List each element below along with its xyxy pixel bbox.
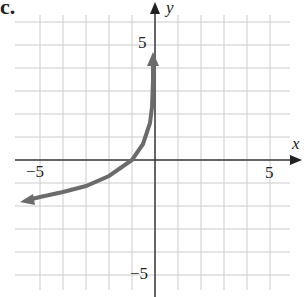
x-axis-label: x [292,134,300,154]
y-axis-arrow-icon [150,2,160,14]
y-axis-label: y [166,0,174,18]
curve [28,62,153,200]
x-tick-5: 5 [265,163,274,183]
chart-plot [0,0,306,297]
y-tick-5: 5 [138,33,147,53]
curve-arrow-up-icon [147,52,159,66]
x-tick-neg5: −5 [26,162,44,182]
curve-arrow-left-icon [20,194,35,205]
x-axis-arrow-icon [290,155,302,165]
y-tick-neg5: −5 [130,264,148,284]
